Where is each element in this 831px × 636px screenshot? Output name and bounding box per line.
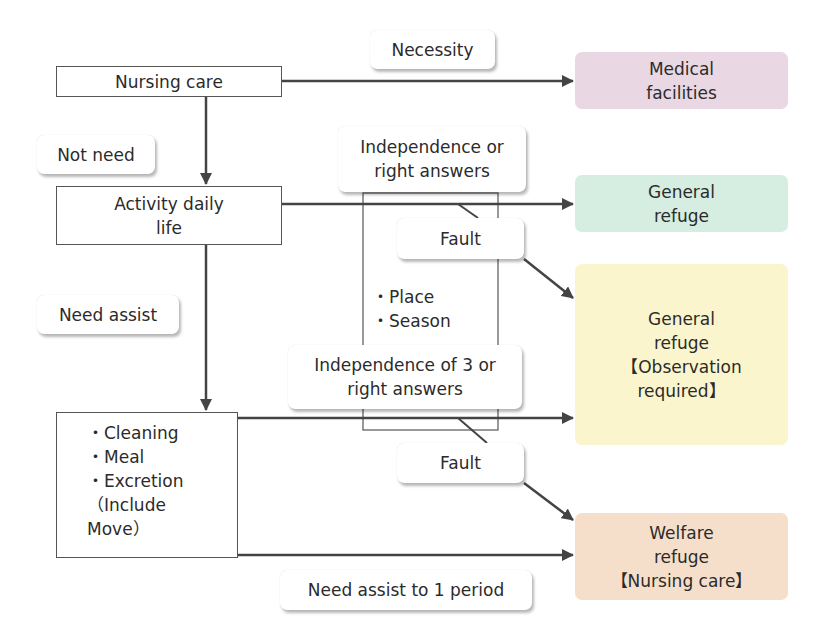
label-not-need-text: Not need [57, 143, 135, 167]
label-need-assist-text: Need assist [59, 303, 157, 327]
arrow-fault1-to-observation [524, 259, 573, 298]
condition-list: ・Place ・Season [372, 285, 451, 333]
arrow-fault2-to-welfare [524, 483, 573, 520]
node-activity-daily-life-label: Activity daily life [114, 192, 224, 240]
label-fault-1-text: Fault [440, 227, 481, 251]
label-need-assist: Need assist [37, 295, 179, 334]
label-independence-of-3: Independence of 3 or right answers [288, 345, 522, 409]
dest-general-refuge-observation: General refuge 【Observation required】 [575, 264, 788, 445]
task-meal: ・Meal [87, 445, 184, 469]
label-independence-or-right: Independence or right answers [338, 126, 526, 192]
dest-medical-facilities-label: Medical facilities [646, 57, 717, 105]
dest-welfare-refuge: Welfare refuge 【Nursing care】 [575, 513, 788, 600]
label-fault-2: Fault [397, 443, 524, 483]
label-need-assist-period: Need assist to 1 period [280, 570, 532, 610]
node-nursing-care-label: Nursing care [115, 70, 223, 94]
condition-place: ・Place [372, 285, 451, 309]
condition-season: ・Season [372, 309, 451, 333]
flowchart: Nursing care Activity daily life ・Cleani… [0, 0, 831, 636]
label-necessity-text: Necessity [391, 38, 473, 62]
label-need-assist-period-text: Need assist to 1 period [308, 578, 504, 602]
node-activity-daily-life: Activity daily life [56, 186, 282, 245]
label-independence-or-right-text: Independence or right answers [360, 135, 504, 183]
node-assist-tasks: ・Cleaning ・Meal ・Excretion （Include Move… [56, 412, 238, 558]
fault1-line-upper [458, 204, 478, 218]
label-necessity: Necessity [370, 30, 495, 69]
dest-general-refuge-observation-label: General refuge 【Observation required】 [621, 307, 742, 403]
task-include: （Include [87, 493, 184, 517]
label-independence-of-3-text: Independence of 3 or right answers [314, 353, 496, 401]
dest-general-refuge: General refuge [575, 175, 788, 232]
label-fault-1: Fault [397, 218, 524, 259]
task-cleaning: ・Cleaning [87, 421, 184, 445]
node-nursing-care: Nursing care [56, 66, 282, 97]
label-not-need: Not need [37, 135, 155, 174]
dest-welfare-refuge-label: Welfare refuge 【Nursing care】 [611, 521, 753, 593]
task-excretion: ・Excretion [87, 469, 184, 493]
dest-medical-facilities: Medical facilities [575, 52, 788, 109]
task-move: Move） [87, 517, 184, 541]
dest-general-refuge-label: General refuge [648, 180, 715, 228]
assist-task-list: ・Cleaning ・Meal ・Excretion （Include Move… [87, 421, 184, 541]
label-fault-2-text: Fault [440, 451, 481, 475]
